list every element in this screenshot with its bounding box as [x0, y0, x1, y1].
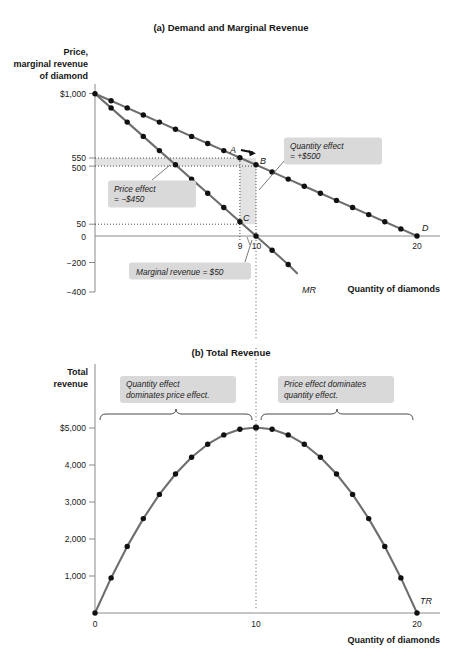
callout-marginal-revenue: Marginal revenue = $50: [129, 240, 252, 280]
callout-price-dominates: Price effect dominates quantity effect.: [278, 376, 394, 403]
panel-b-y-axis-title-line1: Total: [67, 367, 88, 377]
left-brace: [100, 409, 252, 420]
panel-b-title: (b) Total Revenue: [192, 347, 271, 358]
callout-quantity-dominates: Quantity effect dominates price effect.: [120, 376, 236, 403]
figure-container: (a) Demand and Marginal Revenue Price, m…: [0, 0, 462, 659]
demand-curve-label: D: [422, 223, 429, 233]
callout-quantity-effect-line1: Quantity effect: [290, 141, 344, 151]
panel-b-x-axis-title: Quantity of diamonds: [347, 635, 440, 645]
panel-b-ytick-4000: 4,000: [65, 460, 87, 470]
callout-price-dominates-line1: Price effect dominates: [284, 379, 366, 389]
callout-price-effect-line1: Price effect: [114, 184, 156, 194]
a-to-b-arrow: [241, 150, 256, 156]
price-effect-shaded-strip: [95, 158, 240, 166]
callout-price-effect-line2: = −$450: [114, 194, 145, 204]
point-label-c: C: [243, 213, 250, 223]
point-label-b: B: [260, 156, 266, 166]
panel-a-ytick-0: 0: [81, 232, 86, 242]
panel-a-ytick-550: 550: [72, 153, 86, 163]
panel-b-xtick-10: 10: [251, 619, 261, 629]
panel-a-ytick-50: 50: [77, 219, 87, 229]
panel-a-y-axis-title-line1: Price,: [63, 47, 88, 57]
panel-a-xtick-10: 10: [252, 241, 262, 251]
callout-quantity-dominates-line2: dominates price effect.: [126, 390, 209, 400]
panel-b-xtick-0: 0: [93, 619, 98, 629]
callout-marginal-revenue-text: Marginal revenue = $50: [136, 267, 224, 277]
panel-a-y-axis-title: Price, marginal revenue of diamond: [13, 47, 88, 81]
panel-b-ytick-1000: 1,000: [65, 571, 87, 581]
panel-b-ytick-5000: $5,000: [60, 423, 86, 433]
point-label-a: A: [229, 145, 236, 155]
panel-a-title: (a) Demand and Marginal Revenue: [153, 22, 308, 33]
panel-a-x-axis-title: Quantity of diamonds: [347, 284, 440, 294]
callout-quantity-dominates-line1: Quantity effect: [126, 379, 180, 389]
panel-b: (b) Total Revenue Total revenue $5,000 4…: [53, 347, 440, 645]
panel-a-y-ticks: [89, 94, 95, 293]
panel-b-xtick-20: 20: [412, 619, 422, 629]
panel-a-xtick-separator: [247, 237, 250, 245]
callout-quantity-effect: Quantity effect = +$500: [259, 138, 382, 191]
panel-a-xtick-20: 20: [412, 241, 422, 251]
panel-a-ytick-neg400: −400: [67, 287, 86, 297]
right-brace: [261, 409, 413, 420]
panel-a-ytick-1000: $1,000: [60, 89, 86, 99]
marginal-revenue-curve-label: MR: [302, 285, 316, 295]
panel-b-ytick-2000: 2,000: [65, 534, 87, 544]
total-revenue-curve-label: TR: [420, 596, 432, 606]
panel-a-ytick-neg200: −200: [67, 258, 86, 268]
callout-price-dominates-line2: quantity effect.: [284, 390, 338, 400]
panel-a-xtick-9: 9: [238, 241, 243, 251]
panel-a: (a) Demand and Marginal Revenue Price, m…: [13, 22, 440, 297]
panel-b-ytick-3000: 3,000: [65, 497, 87, 507]
panel-b-y-ticks: [89, 428, 95, 576]
callout-quantity-effect-line2: = +$500: [290, 151, 321, 161]
panel-a-y-axis-title-line3: of diamond: [40, 71, 89, 81]
panel-b-y-axis-title: Total revenue: [53, 367, 88, 389]
panel-b-y-axis-title-line2: revenue: [53, 379, 88, 389]
panel-a-y-axis-title-line2: marginal revenue: [13, 59, 88, 69]
panel-a-ytick-500: 500: [72, 163, 86, 173]
